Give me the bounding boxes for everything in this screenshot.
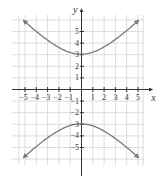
y-tick-label: 2 (75, 62, 79, 71)
y-tick-label: −1 (70, 97, 79, 106)
hyperbola-plot: −5−4−3−2−112345−5−4−3−2−112345xy (0, 0, 165, 178)
y-tick-label: 5 (75, 27, 79, 36)
y-tick-label: −3 (70, 120, 79, 129)
y-tick-label: −2 (70, 108, 79, 117)
x-tick-label: 3 (113, 93, 117, 102)
y-tick-label: 3 (75, 50, 79, 59)
x-tick-label: 5 (136, 93, 140, 102)
x-tick-label: 4 (125, 93, 129, 102)
y-tick-label: −4 (70, 131, 79, 140)
y-tick-label: 4 (75, 39, 79, 48)
x-tick-label: 2 (102, 93, 106, 102)
x-tick-label: −3 (42, 93, 51, 102)
x-tick-label: −5 (19, 93, 28, 102)
y-tick-label: 1 (75, 73, 79, 82)
x-axis-label: x (150, 92, 156, 103)
y-axis-label: y (72, 4, 78, 15)
x-tick-label: −2 (53, 93, 62, 102)
y-tick-label: −5 (70, 143, 79, 152)
x-tick-label: 1 (91, 93, 95, 102)
x-tick-label: −4 (31, 93, 40, 102)
